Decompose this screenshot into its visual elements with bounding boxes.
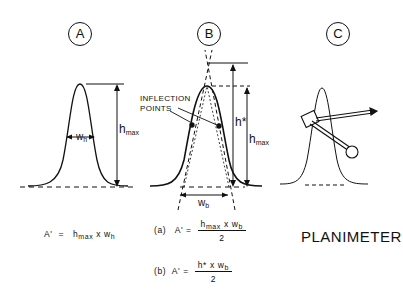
- hstar-label: h*: [235, 115, 246, 129]
- planimeter-caption: PLANIMETER: [301, 228, 402, 245]
- formula-b-b: (b) A' = h* x wb2: [154, 260, 232, 284]
- planimeter-icon: [301, 108, 377, 158]
- wb-label: wb: [198, 197, 209, 208]
- formula-a: A' = hmax x wh: [44, 229, 115, 239]
- panel-label-c: C: [326, 22, 350, 46]
- tangent-left: [178, 50, 212, 210]
- formula-b-a: (a) A' = hmax x wb2: [154, 219, 246, 243]
- panel-label-b: B: [197, 22, 221, 46]
- panel-label-a: A: [68, 22, 92, 46]
- peak-c: [280, 88, 368, 184]
- wh-label: wh: [76, 131, 87, 142]
- hmax-label-b: hmax: [249, 132, 269, 146]
- hmax-label-a: hmax: [119, 122, 139, 136]
- tangent-right: [205, 50, 235, 210]
- inflection-points-label: INFLECTIONPOINTS: [140, 94, 191, 114]
- diagram-drawing: [0, 0, 403, 303]
